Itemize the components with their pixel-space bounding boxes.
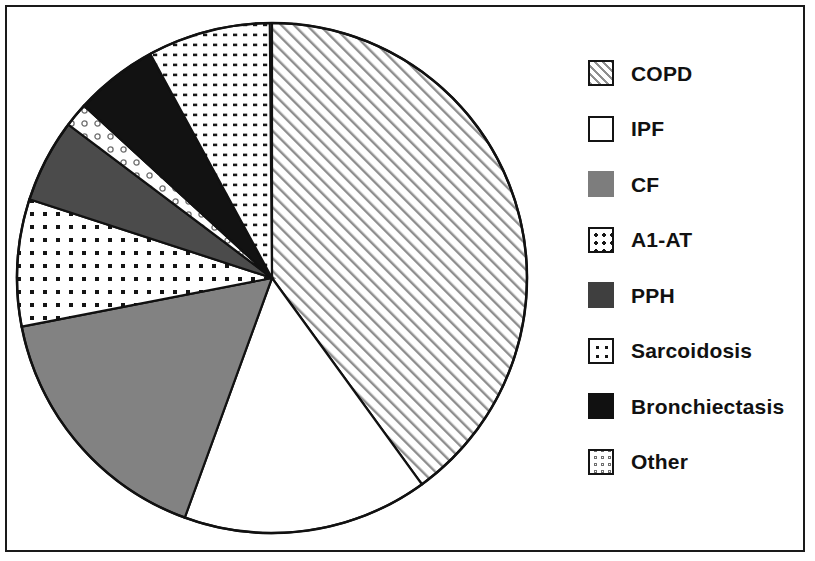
legend-swatch-ipf	[588, 116, 614, 142]
legend-swatch-copd	[588, 60, 614, 86]
pie-slices-group	[17, 23, 527, 533]
legend-label: CF	[631, 174, 659, 195]
legend-label: Bronchiectasis	[631, 396, 784, 417]
legend-item-cf[interactable]: CF	[588, 169, 659, 199]
chart-legend: COPDIPFCFA1-ATPPHSarcoidosisBronchiectas…	[588, 58, 803, 498]
legend-swatch-cf	[588, 171, 614, 197]
legend-item-a1-at[interactable]: A1-AT	[588, 225, 692, 255]
legend-swatch-pph	[588, 282, 614, 308]
legend-swatch-other	[588, 449, 614, 475]
legend-item-pph[interactable]: PPH	[588, 280, 675, 310]
legend-swatch-sarcoidosis	[588, 338, 614, 364]
legend-label: Sarcoidosis	[631, 340, 752, 361]
legend-swatch-a1at	[588, 227, 614, 253]
legend-item-sarcoidosis[interactable]: Sarcoidosis	[588, 336, 752, 366]
legend-swatch-bronchiectasis	[588, 393, 614, 419]
legend-item-bronchiectasis[interactable]: Bronchiectasis	[588, 391, 784, 421]
legend-label: IPF	[631, 118, 664, 139]
legend-label: A1-AT	[631, 229, 692, 250]
legend-label: PPH	[631, 285, 675, 306]
legend-label: COPD	[631, 63, 692, 84]
pie-chart-figure: COPDIPFCFA1-ATPPHSarcoidosisBronchiectas…	[0, 0, 815, 561]
pie-chart-svg	[0, 0, 560, 561]
legend-label: Other	[631, 451, 688, 472]
legend-item-other[interactable]: Other	[588, 447, 688, 477]
pie-chart-area	[0, 0, 560, 561]
legend-item-ipf[interactable]: IPF	[588, 114, 664, 144]
legend-item-copd[interactable]: COPD	[588, 58, 692, 88]
